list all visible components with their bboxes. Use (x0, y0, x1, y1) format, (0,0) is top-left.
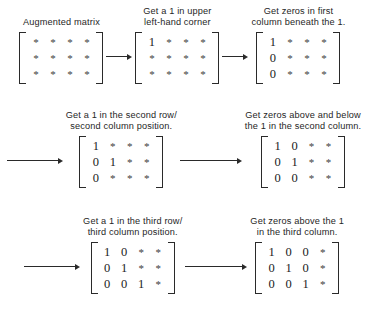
arrow-head (243, 54, 248, 60)
matrix-cell: * (314, 244, 331, 260)
matrix-cell: * (315, 66, 332, 82)
matrix-cell: * (121, 138, 138, 154)
matrix-cell: * (27, 66, 44, 82)
step-one-third-row: Get a 1 in the third row/ third column p… (83, 216, 182, 294)
matrix-cell: * (61, 66, 78, 82)
matrix-cell: * (177, 66, 194, 82)
diagram-row-1: Augmented matrix * * * * * * * * * * * * (0, 6, 365, 84)
matrix-cell: 0 (116, 276, 133, 292)
matrix-cell: * (44, 50, 61, 66)
matrix-cell: * (320, 138, 337, 154)
matrix-cell: 0 (87, 154, 104, 170)
matrix-cell: 1 (104, 154, 121, 170)
arrow-icon-1 (106, 52, 132, 62)
matrix-3: 1 * * * 0 * * * 0 * * * (256, 32, 340, 84)
matrix-cell: * (138, 170, 155, 186)
right-bracket-icon (157, 136, 163, 188)
matrix-cell: * (133, 260, 150, 276)
diagram-row-3: Get a 1 in the third row/ third column p… (0, 216, 365, 294)
matrix-cell: 0 (286, 170, 303, 186)
left-bracket-icon (256, 32, 262, 84)
matrix-cell: 0 (87, 170, 104, 186)
matrix-cell: 0 (280, 244, 297, 260)
matrix-cell: 0 (297, 244, 314, 260)
step-4-caption: Get a 1 in the second row/ second column… (66, 110, 177, 133)
matrix-cell: 0 (269, 170, 286, 186)
left-bracket-icon (19, 32, 25, 84)
step-1-caption: Augmented matrix (23, 17, 100, 28)
matrix-cell: * (78, 66, 95, 82)
matrix-cell: * (133, 244, 150, 260)
arrow-shaft (106, 56, 128, 57)
matrix-cell: 0 (280, 276, 297, 292)
step-zeros-third-column: Get zeros above the 1 in the third colum… (250, 216, 344, 294)
gauss-jordan-diagram: Augmented matrix * * * * * * * * * * * * (0, 0, 365, 320)
matrix-cell: * (315, 50, 332, 66)
arrow-icon-6 (185, 262, 247, 272)
step-3-caption: Get zeros in first column beneath the 1. (251, 6, 345, 29)
step-one-second-row: Get a 1 in the second row/ second column… (66, 110, 177, 188)
matrix-cell: * (320, 170, 337, 186)
step-leading-one: Get a 1 in upper left-hand corner 1 * * … (135, 6, 219, 84)
matrix-cell: * (104, 170, 121, 186)
step-zeros-second-column: Get zeros above and below the 1 in the s… (245, 110, 361, 188)
matrix-cell: 0 (264, 66, 281, 82)
matrix-2-cells: 1 * * * * * * * * * * * (141, 32, 213, 84)
matrix-cell: * (298, 50, 315, 66)
matrix-cell: * (314, 260, 331, 276)
matrix-cell: * (160, 50, 177, 66)
matrix-cell: * (27, 34, 44, 50)
matrix-cell: 0 (99, 276, 116, 292)
matrix-cell: * (281, 66, 298, 82)
matrix-cell: 0 (99, 260, 116, 276)
matrix-1: * * * * * * * * * * * * (19, 32, 103, 84)
left-bracket-icon (91, 242, 97, 294)
step-7-caption: Get zeros above the 1 in the third colum… (250, 216, 344, 239)
arrow-head (237, 158, 242, 164)
matrix-cell: * (150, 276, 167, 292)
left-bracket-icon (255, 242, 261, 294)
matrix-cell: * (315, 34, 332, 50)
matrix-cell: * (150, 244, 167, 260)
matrix-cell: * (303, 170, 320, 186)
arrow-shaft (7, 160, 59, 161)
matrix-cell: 1 (263, 244, 280, 260)
matrix-cell: * (27, 50, 44, 66)
matrix-1-cells: * * * * * * * * * * * * (25, 32, 97, 84)
right-bracket-icon (169, 242, 175, 294)
step-zeros-first-column: Get zeros in first column beneath the 1.… (251, 6, 345, 84)
matrix-cell: * (281, 50, 298, 66)
matrix-7: 1 0 0 * 0 1 0 * 0 0 1 * (255, 242, 339, 294)
step-6-caption: Get a 1 in the third row/ third column p… (83, 216, 182, 239)
matrix-cell: * (298, 66, 315, 82)
matrix-cell: 1 (87, 138, 104, 154)
arrow-icon-4 (180, 156, 242, 166)
right-bracket-icon (334, 32, 340, 84)
matrix-cell: * (78, 34, 95, 50)
matrix-cell: 0 (269, 154, 286, 170)
matrix-6: 1 0 * * 0 1 * * 0 0 1 * (91, 242, 175, 294)
matrix-cell: * (160, 34, 177, 50)
matrix-cell: * (194, 50, 211, 66)
matrix-cell: 1 (99, 244, 116, 260)
matrix-cell: * (320, 154, 337, 170)
arrow-head (127, 54, 132, 60)
matrix-cell: * (138, 138, 155, 154)
matrix-cell: 0 (264, 50, 281, 66)
arrow-shaft (180, 160, 238, 161)
arrow-head (75, 264, 80, 270)
matrix-2: 1 * * * * * * * * * * * (135, 32, 219, 84)
matrix-cell: 0 (263, 260, 280, 276)
matrix-cell: * (303, 138, 320, 154)
matrix-cell: 0 (116, 244, 133, 260)
matrix-cell: 1 (297, 276, 314, 292)
matrix-cell: * (44, 34, 61, 50)
matrix-cell: * (104, 138, 121, 154)
right-bracket-icon (97, 32, 103, 84)
matrix-cell: * (298, 34, 315, 50)
matrix-3-cells: 1 * * * 0 * * * 0 * * * (262, 32, 334, 84)
matrix-4: 1 * * * 0 1 * * 0 * * * (79, 136, 163, 188)
matrix-cell: * (314, 276, 331, 292)
step-5-caption: Get zeros above and below the 1 in the s… (245, 110, 361, 133)
arrow-icon-2 (222, 52, 248, 62)
